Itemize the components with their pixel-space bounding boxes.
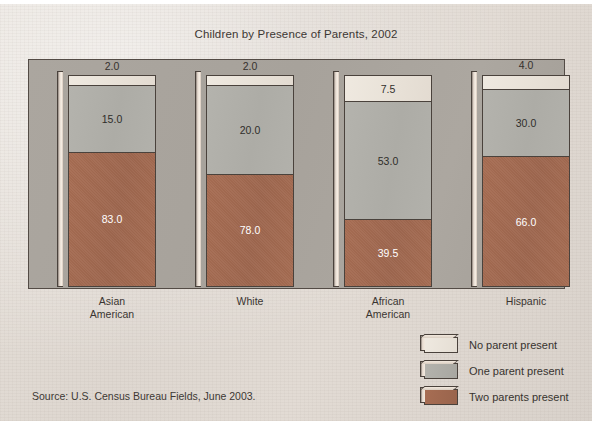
bar-group-asian-american: 2.0 15.0 83.0 [63, 60, 163, 288]
category-label-hispanic: Hispanic [476, 295, 576, 308]
bar-group-hispanic: 4.0 30.0 66.0 [477, 60, 577, 288]
segment-two-parents[interactable]: 39.5 [345, 219, 431, 286]
segment-value-two-parents: 83.0 [102, 213, 122, 225]
segment-value-one-parent: 15.0 [102, 113, 122, 125]
category-label-line2: American [62, 308, 162, 321]
source-note: Source: U.S. Census Bureau Fields, June … [32, 390, 256, 402]
segment-two-parents[interactable]: 78.0 [207, 174, 293, 286]
bar-side-face [57, 71, 63, 287]
segment-no-parent[interactable]: 4.0 [483, 76, 569, 89]
segment-value-two-parents: 78.0 [240, 224, 260, 236]
legend-swatch-one-parent [424, 363, 458, 379]
segment-value-two-parents: 66.0 [516, 216, 536, 228]
category-label-line1: White [200, 295, 300, 308]
category-label-asian-american: Asian American [62, 295, 162, 320]
category-label-african-american: African American [338, 295, 438, 320]
segment-value-no-parent: 2.0 [69, 60, 155, 72]
stacked-bar[interactable]: 4.0 30.0 66.0 [482, 75, 570, 287]
legend-item-no-parent[interactable]: No parent present [424, 332, 589, 358]
legend-swatch-no-parent [424, 337, 458, 353]
category-label-white: White [200, 295, 300, 308]
segment-no-parent[interactable]: 2.0 [69, 76, 155, 85]
segment-two-parents[interactable]: 83.0 [69, 152, 155, 286]
legend-label-one-parent: One parent present [469, 365, 564, 377]
segment-value-one-parent: 30.0 [516, 117, 536, 129]
segment-two-parents[interactable]: 66.0 [483, 156, 569, 286]
category-label-line1: Asian [62, 295, 162, 308]
segment-value-two-parents: 39.5 [378, 247, 398, 259]
paper-background: Children by Presence of Parents, 2002 2.… [0, 4, 592, 421]
bar-group-white: 2.0 20.0 78.0 [201, 60, 301, 288]
legend-item-two-parents[interactable]: Two parents present [424, 384, 589, 410]
plot-inner: 2.0 15.0 83.0 2.0 [29, 60, 564, 288]
bar-group-african-american: 7.5 53.0 39.5 [339, 60, 439, 288]
segment-value-one-parent: 53.0 [378, 155, 398, 167]
segment-value-no-parent: 2.0 [207, 60, 293, 72]
legend-label-no-parent: No parent present [469, 339, 557, 351]
segment-no-parent[interactable]: 2.0 [207, 76, 293, 85]
legend-label-two-parents: Two parents present [469, 391, 569, 403]
segment-one-parent[interactable]: 30.0 [483, 89, 569, 156]
stacked-bar[interactable]: 2.0 15.0 83.0 [68, 75, 156, 287]
bar-side-face [471, 71, 477, 287]
segment-one-parent[interactable]: 53.0 [345, 101, 431, 219]
bar-side-face [195, 71, 201, 287]
segment-value-no-parent: 4.0 [483, 59, 569, 71]
category-label-line1: Hispanic [476, 295, 576, 308]
segment-value-one-parent: 20.0 [240, 124, 260, 136]
segment-one-parent[interactable]: 15.0 [69, 85, 155, 152]
legend-item-one-parent[interactable]: One parent present [424, 358, 589, 384]
segment-no-parent[interactable]: 7.5 [345, 76, 431, 101]
segment-value-no-parent: 7.5 [381, 83, 396, 95]
chart-legend: No parent present One parent present Two… [424, 332, 589, 410]
category-label-line2: American [338, 308, 438, 321]
legend-swatch-two-parents [424, 389, 458, 405]
segment-one-parent[interactable]: 20.0 [207, 85, 293, 174]
stacked-bar[interactable]: 2.0 20.0 78.0 [206, 75, 294, 287]
category-label-line1: African [338, 295, 438, 308]
plot-area: 2.0 15.0 83.0 2.0 [28, 59, 565, 289]
scanned-chart-page: Children by Presence of Parents, 2002 2.… [0, 0, 601, 427]
stacked-bar[interactable]: 7.5 53.0 39.5 [344, 75, 432, 287]
bar-side-face [333, 71, 339, 287]
chart-title: Children by Presence of Parents, 2002 [0, 28, 592, 40]
